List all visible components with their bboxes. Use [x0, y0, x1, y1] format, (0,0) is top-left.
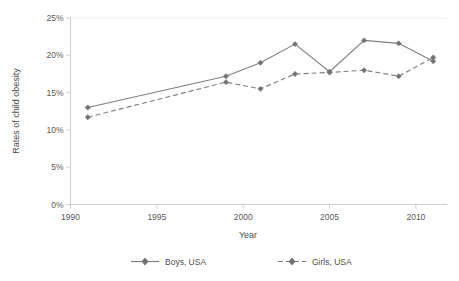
y-axis-title: Rates of child obesity: [11, 68, 21, 154]
data-point-boys-usa-2001: [258, 60, 263, 65]
data-point-girls-usa-1999: [223, 79, 228, 84]
series-group: [85, 38, 436, 120]
y-tick-label-5%: 5%: [51, 162, 64, 172]
legend-marker-boys: [142, 258, 149, 265]
x-tick-label-1990: 1990: [61, 212, 80, 222]
y-tick-label-15%: 15%: [46, 88, 63, 98]
chart-container: 0%5%10%15%20%25% 19901995200020052010 Ye…: [0, 0, 459, 281]
x-axis-title: Year: [239, 230, 257, 240]
x-axis-tick-labels: 19901995200020052010: [61, 212, 426, 222]
line-chart: 0%5%10%15%20%25% 19901995200020052010 Ye…: [0, 0, 459, 281]
series-line-boys-usa: [88, 40, 433, 107]
data-point-girls-usa-1991: [85, 115, 90, 120]
data-point-girls-usa-2011: [430, 55, 435, 60]
x-tick-label-2010: 2010: [406, 212, 425, 222]
y-tick-label-20%: 20%: [46, 50, 63, 60]
data-point-boys-usa-1991: [85, 105, 90, 110]
data-point-boys-usa-2009: [396, 41, 401, 46]
legend-label-girls[interactable]: Girls, USA: [312, 257, 352, 267]
x-tick-label-2000: 2000: [234, 212, 253, 222]
y-tick-label-10%: 10%: [46, 125, 63, 135]
data-point-girls-usa-2001: [258, 86, 263, 91]
legend-marker-girls: [289, 258, 296, 265]
y-tick-label-0%: 0%: [51, 200, 64, 210]
x-axis-ticks: [71, 205, 416, 209]
legend: Boys, USA Girls, USA: [131, 257, 352, 267]
y-tick-label-25%: 25%: [46, 13, 63, 23]
legend-label-boys[interactable]: Boys, USA: [165, 257, 206, 267]
y-axis-tick-labels: 0%5%10%15%20%25%: [46, 13, 63, 210]
y-axis-ticks: [67, 18, 71, 205]
data-point-girls-usa-2009: [396, 73, 401, 78]
data-point-boys-usa-1999: [223, 73, 228, 78]
data-point-girls-usa-2007: [361, 68, 366, 73]
data-point-girls-usa-2003: [292, 71, 297, 76]
x-tick-label-2005: 2005: [320, 212, 339, 222]
x-tick-label-1995: 1995: [147, 212, 166, 222]
